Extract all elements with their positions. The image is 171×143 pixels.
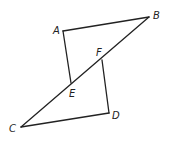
point-label-c: C [9, 123, 16, 134]
point-label-f: F [96, 47, 102, 58]
point-label-e: E [69, 88, 76, 99]
point-label-b: B [153, 10, 160, 21]
segment-fd [102, 60, 109, 113]
segment-bc [21, 17, 149, 127]
segments-group [21, 17, 149, 127]
segment-ae [63, 31, 71, 83]
point-label-d: D [112, 110, 120, 121]
point-label-a: A [52, 25, 60, 36]
diagram-svg: ABCDEF [0, 0, 171, 143]
geometry-diagram: ABCDEF [0, 0, 171, 143]
